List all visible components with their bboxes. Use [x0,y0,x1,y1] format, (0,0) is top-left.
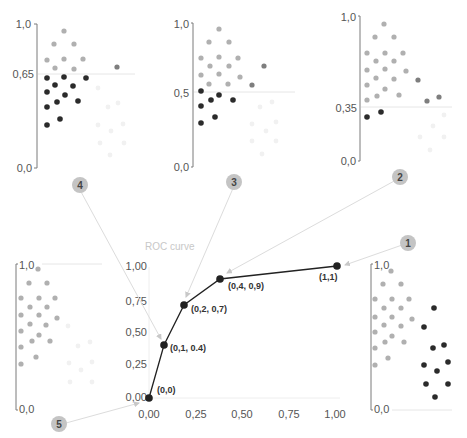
positive-dots [421,305,451,400]
callout-5[interactable]: 5 [51,416,67,432]
connector-5 [66,403,139,423]
svg-text:(0,4, 0,9): (0,4, 0,9) [228,281,264,291]
negative-dots [364,21,408,102]
positive-dots [44,74,89,128]
roc-point[interactable] [333,262,341,270]
faint-dots [250,100,279,157]
misclassified-dots [415,77,441,103]
svg-text:1: 1 [405,238,411,249]
y-axis [371,264,373,410]
svg-text:(1,1): (1,1) [319,272,338,282]
misclassified-dots [249,63,266,87]
callout-3[interactable]: 3 [226,174,242,190]
positive-dots [198,88,236,126]
y-tick-bottom: 0,0 [17,162,32,174]
svg-text:(0,1, 0.4): (0,1, 0.4) [170,343,206,353]
panel-threshold-035: 1,0 0,35 0,0 [336,11,452,167]
y-tick-bottom: 0,0 [341,155,356,167]
svg-text:4: 4 [77,180,83,191]
y-axis [16,264,18,410]
svg-text:0,75: 0,75 [126,295,147,307]
svg-text:(0,2, 0,7): (0,2, 0,7) [191,304,227,314]
svg-text:0,50: 0,50 [126,326,147,338]
x-tick-labels: 0,00 0,25 0,50 0,75 1,00 [138,408,345,420]
svg-text:0,50: 0,50 [231,408,252,420]
svg-text:0,00: 0,00 [138,408,159,420]
svg-text:0,75: 0,75 [278,408,299,420]
y-tick-top: 1,0 [341,11,356,23]
y-tick-top: 1,0 [16,18,31,30]
callout-1[interactable]: 1 [400,235,416,251]
roc-point-labels: (0,0) (0,1, 0.4) (0,2, 0,7) (0,4, 0,9) (… [157,272,338,395]
threshold-label: 0,5 [174,87,189,99]
svg-text:5: 5 [56,419,62,430]
roc-diagram: 1,0 0,65 0,0 1,0 0,5 0,0 [0,0,467,438]
roc-point[interactable] [160,341,168,349]
negative-dots [198,26,242,86]
y-tick-bottom: 0,0 [174,161,189,173]
y-tick-bottom: 0,0 [19,403,34,415]
svg-text:0,25: 0,25 [126,358,147,370]
svg-text:1,00: 1,00 [324,408,345,420]
roc-point[interactable] [216,275,224,283]
y-tick-top: 1,0 [174,18,189,30]
faint-dots [418,113,447,153]
y-axis [34,24,37,168]
positive-dots [364,109,384,120]
misclassified-dot [114,64,119,69]
y-tick-labels: 1,00 0,75 0,50 0,25 0,00 [126,260,147,403]
svg-text:0,25: 0,25 [185,408,206,420]
y-tick-top: 1,0 [19,259,34,271]
svg-text:1,00: 1,00 [126,260,147,272]
faint-dots [96,86,127,158]
roc-point[interactable] [145,394,153,402]
panel-threshold-min: 1,0 0,0 [371,259,452,415]
callout-2[interactable]: 2 [392,169,408,185]
callout-4[interactable]: 4 [72,177,88,193]
y-tick-bottom: 0,0 [374,403,389,415]
y-axis [191,23,193,167]
y-axis [358,16,360,161]
faint-dots [66,324,95,385]
panel-threshold-065: 1,0 0,65 0,0 [13,18,135,174]
roc-point[interactable] [180,301,188,309]
connectors [66,180,405,423]
svg-text:0,00: 0,00 [126,391,147,403]
svg-text:2: 2 [397,172,403,183]
svg-text:3: 3 [231,177,237,188]
chart-title: ROC curve [145,241,195,252]
svg-text:(0,0): (0,0) [157,385,176,395]
panel-threshold-max: 1,0 0,0 [16,259,102,415]
negative-dots [18,266,59,366]
panel-threshold-05: 1,0 0,5 0,0 [174,18,295,173]
negative-dots [44,28,85,71]
negative-dots [372,268,414,367]
connector-2 [227,180,396,273]
y-tick-top: 1,0 [374,259,389,271]
threshold-label: 0,65 [13,68,34,80]
threshold-label: 0,35 [336,102,357,114]
